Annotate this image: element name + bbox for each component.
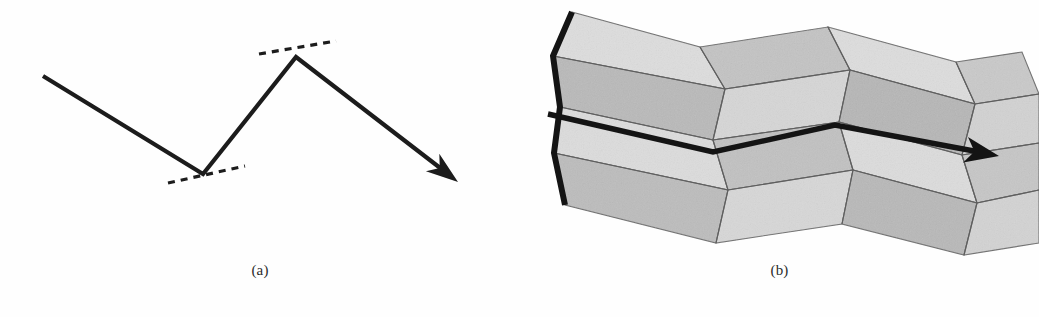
fold-profile-polyline bbox=[43, 57, 448, 174]
panel-a-caption: (a) bbox=[0, 262, 520, 279]
panel-a: (a) bbox=[0, 0, 520, 317]
panel-b: (b) bbox=[520, 0, 1039, 317]
panel-b-caption: (b) bbox=[520, 262, 1039, 279]
figure-root: (a) bbox=[0, 0, 1039, 317]
dashed-tangent-peak bbox=[259, 41, 336, 54]
